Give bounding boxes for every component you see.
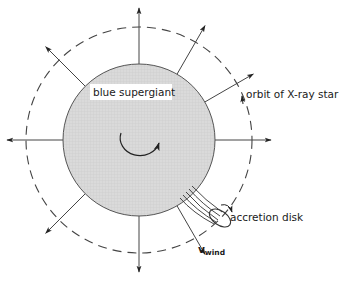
wind-arrow-icon: [46, 194, 86, 234]
orbit-label: orbit of X-ray star: [246, 88, 339, 100]
wind-arrow-icon: [46, 47, 86, 87]
orbit-direction-arrow-icon: [242, 96, 243, 104]
accretion-disk-label: accretion disk: [230, 211, 304, 223]
wind-arrow-icon: [177, 26, 205, 74]
wind-velocity-label: vwind: [198, 243, 225, 257]
binary-system-diagram: blue supergiant orbit of X-ray star accr…: [0, 0, 344, 282]
star-label: blue supergiant: [93, 86, 175, 98]
diagram-canvas: blue supergiant orbit of X-ray star accr…: [0, 0, 344, 282]
